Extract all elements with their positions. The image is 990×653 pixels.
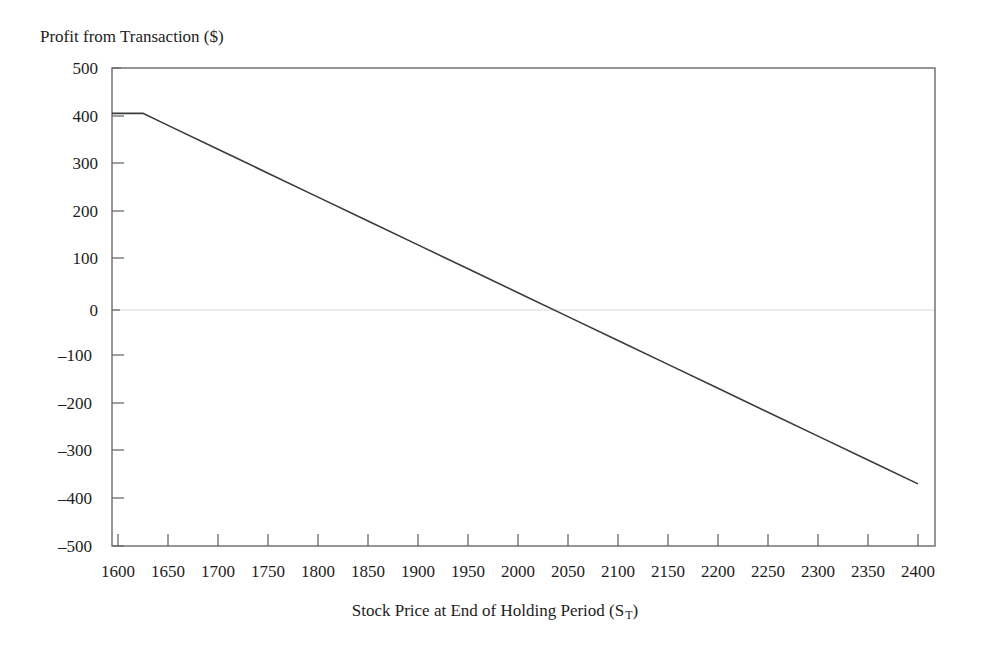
x-tick-label-1750: 1750 xyxy=(240,563,296,580)
x-tick-label-1850: 1850 xyxy=(340,563,396,580)
x-tick-label-2050: 2050 xyxy=(540,563,596,580)
profit-chart-figure: Profit from Transaction ($) xyxy=(0,0,990,653)
y-tick-label-300: 300 xyxy=(36,155,98,172)
x-tick-label-2400: 2400 xyxy=(890,563,946,580)
y-tick-label-500: 500 xyxy=(36,60,98,77)
y-tick-label-100: 100 xyxy=(36,250,98,267)
plot-area xyxy=(0,0,990,653)
y-tick-label-0: 0 xyxy=(36,302,98,319)
y-axis-ticks xyxy=(112,68,124,546)
x-axis-ticks xyxy=(118,534,918,546)
x-tick-label-2150: 2150 xyxy=(640,563,696,580)
y-tick-label-neg400: –400 xyxy=(30,490,92,507)
x-tick-label-2100: 2100 xyxy=(590,563,646,580)
y-tick-label-neg100: –100 xyxy=(30,347,92,364)
x-tick-label-1650: 1650 xyxy=(140,563,196,580)
x-tick-label-1800: 1800 xyxy=(290,563,346,580)
plot-frame xyxy=(112,68,935,546)
x-axis-title-suffix: ) xyxy=(633,601,639,620)
x-axis-title-main: Stock Price at End of Holding Period (S xyxy=(352,601,624,620)
x-tick-label-2000: 2000 xyxy=(490,563,546,580)
x-tick-label-2300: 2300 xyxy=(790,563,846,580)
y-tick-label-neg500: –500 xyxy=(30,538,92,555)
x-tick-label-2350: 2350 xyxy=(840,563,896,580)
x-tick-label-2250: 2250 xyxy=(740,563,796,580)
x-tick-label-1600: 1600 xyxy=(90,563,146,580)
y-tick-label-neg200: –200 xyxy=(30,395,92,412)
x-tick-label-1950: 1950 xyxy=(440,563,496,580)
x-tick-label-1900: 1900 xyxy=(390,563,446,580)
x-axis-title: Stock Price at End of Holding Period (ST… xyxy=(0,600,990,626)
x-axis-title-subscript: T xyxy=(624,608,632,622)
y-tick-label-200: 200 xyxy=(36,203,98,220)
x-tick-label-1700: 1700 xyxy=(190,563,246,580)
x-tick-label-2200: 2200 xyxy=(690,563,746,580)
y-tick-label-neg300: –300 xyxy=(30,442,92,459)
y-tick-label-400: 400 xyxy=(36,108,98,125)
data-series-line xyxy=(112,113,918,484)
